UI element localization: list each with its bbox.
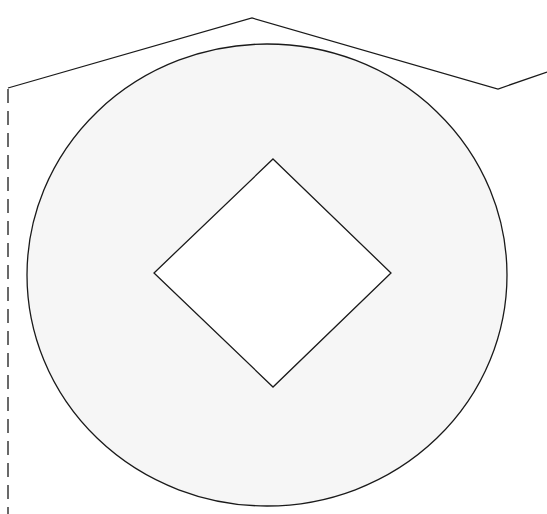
diagram-canvas <box>0 0 547 514</box>
